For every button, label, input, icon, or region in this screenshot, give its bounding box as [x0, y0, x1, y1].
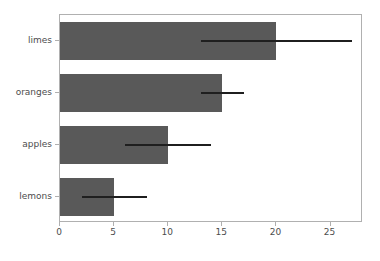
y-tick-label-oranges: oranges — [16, 87, 52, 98]
x-tick-mark — [221, 222, 222, 226]
error-bar-oranges — [201, 92, 244, 94]
y-tick-mark — [55, 40, 59, 41]
x-tick-label: 20 — [270, 227, 281, 238]
x-tick-mark — [113, 222, 114, 226]
error-bar-lemons — [82, 196, 147, 198]
error-bar-apples — [125, 144, 212, 146]
y-tick-mark — [55, 92, 59, 93]
bars-layer — [60, 15, 361, 221]
y-tick-label-limes: limes — [28, 35, 52, 46]
y-tick-label-lemons: lemons — [19, 191, 52, 202]
x-tick-mark — [330, 222, 331, 226]
bar-oranges — [60, 74, 222, 111]
x-tick-label: 0 — [56, 227, 62, 238]
x-tick-label: 10 — [161, 227, 172, 238]
x-tick-mark — [59, 222, 60, 226]
plot-area — [59, 14, 362, 222]
x-tick-label: 5 — [110, 227, 116, 238]
x-tick-label: 25 — [324, 227, 335, 238]
x-tick-mark — [275, 222, 276, 226]
y-tick-mark — [55, 196, 59, 197]
y-tick-label-apples: apples — [22, 139, 52, 150]
error-bar-limes — [201, 40, 353, 42]
y-axis: lemonsapplesorangeslimes — [0, 14, 59, 222]
chart-figure: lemonsapplesorangeslimes 0510152025 — [0, 0, 380, 261]
x-axis: 0510152025 — [59, 222, 362, 252]
y-tick-mark — [55, 144, 59, 145]
x-tick-mark — [167, 222, 168, 226]
x-tick-label: 15 — [216, 227, 227, 238]
